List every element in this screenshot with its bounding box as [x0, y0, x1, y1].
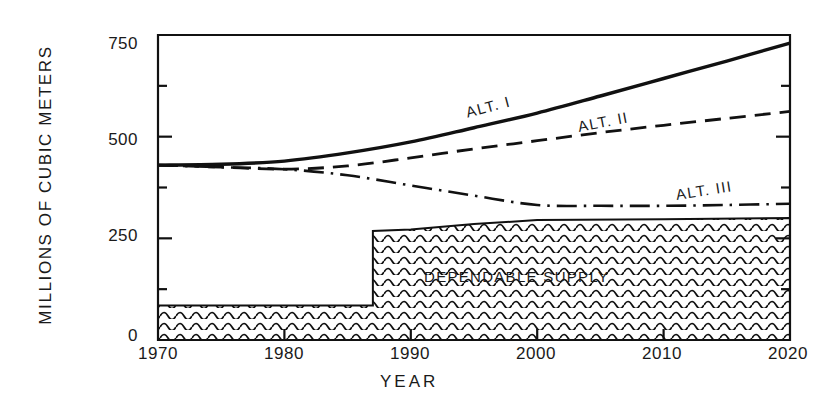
- filled-area-label: DEPENDABLE SUPPLY: [424, 268, 609, 285]
- plot-canvas: [0, 0, 840, 403]
- chart-figure: MILLIONS OF CUBIC METERS YEAR 750 500 25…: [0, 0, 840, 403]
- series-line-2: [158, 111, 790, 169]
